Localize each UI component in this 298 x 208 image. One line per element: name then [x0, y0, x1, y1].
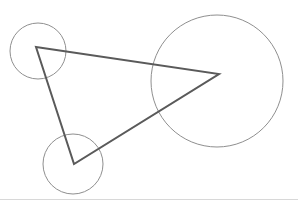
canvas-background — [0, 0, 298, 208]
geometry-canvas — [0, 0, 298, 208]
figure-root — [0, 0, 298, 208]
